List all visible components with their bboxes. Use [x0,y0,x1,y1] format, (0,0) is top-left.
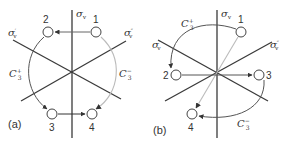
point-4-circle-a [87,109,97,119]
c3-plus-label-a: C+3 [9,67,22,81]
point-1-label-b: 1 [238,14,244,25]
point-2-label-b: 2 [163,70,169,81]
c3-minus-label-a: C−3 [119,67,132,81]
panel-b-label: (b) [153,124,166,136]
point-2-circle-a [43,27,53,37]
c3-plus-label-b: C+3 [181,17,194,31]
c3v-symmetry-diagram: 1 2 3 4 σv σ′v σ″v C+3 C−3 (a) 1 2 [0,0,292,145]
point-4-circle-b [187,109,197,119]
panel-a-label: (a) [8,118,21,130]
point-1-label-a: 1 [93,14,99,25]
sigma-v-double-prime-label-b: σ″v [270,39,280,51]
point-3-circle-b [254,70,264,80]
point-1-circle-a [91,27,101,37]
point-3-label-a: 3 [49,122,55,133]
panel-b: 1 2 3 4 σv σ′v σ″v C+3 C−3 (b) [152,8,280,138]
point-4-label-a: 4 [89,122,95,133]
c3-minus-label-b: C−3 [237,117,250,131]
point-3-label-b: 3 [266,70,272,81]
sigma-v-prime-label-b: σ′v [152,39,161,51]
panel-a: 1 2 3 4 σv σ′v σ″v C+3 C−3 (a) [8,8,134,138]
point-3-circle-a [47,109,57,119]
sigma-v-label-b: σv [221,8,232,20]
sigma-v-prime-label-a: σ′v [8,27,17,39]
sigma-v-prime-plane-a [13,40,121,99]
c3-plus-arc-b [171,25,236,68]
point-1-circle-b [236,27,246,37]
sigma-v-double-prime-label-a: σ″v [124,27,134,39]
point-2-label-a: 2 [43,14,49,25]
c3-plus-arc-a [29,37,47,109]
point-4-label-b: 4 [188,122,194,133]
point-2-circle-b [171,70,181,80]
sigma-v-label-a: σv [76,8,87,20]
sigma-v-double-prime-plane-a [21,41,126,101]
